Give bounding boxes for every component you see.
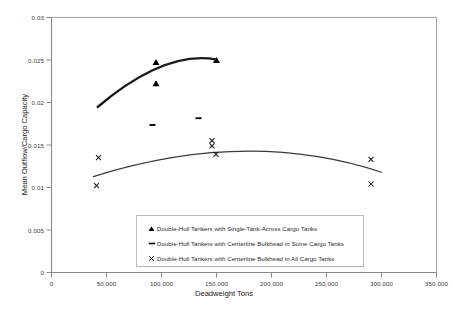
x-tick-label-150000: 150,000 xyxy=(197,280,237,287)
x-marker-icon xyxy=(146,255,157,262)
dash-marker-icon xyxy=(146,240,157,247)
legend-label-centerline-some: Double-Hull Tankers with Centerline Bulk… xyxy=(157,240,344,247)
x-tick-label-200000: 200,000 xyxy=(252,280,292,287)
chart-legend: Double-Hull Tankers with Single-Tank-Acr… xyxy=(136,215,364,267)
y-axis-title: Mean Outflow/Cargo Capacity xyxy=(20,65,29,225)
x-tick-label-100000: 100,000 xyxy=(142,280,182,287)
x-tick-label-0: 0 xyxy=(32,280,72,287)
x-tick-marks xyxy=(52,273,437,278)
y-tick-label-0.025: 0.025 xyxy=(8,57,44,64)
x-tick-label-350000: 350,000 xyxy=(417,280,453,287)
legend-label-single-tank-across: Double-Hull Tankers with Single-Tank-Acr… xyxy=(157,225,317,232)
legend-label-centerline-all: Double-Hull Tankers with Centerline Bulk… xyxy=(157,255,334,262)
x-tick-label-300000: 300,000 xyxy=(362,280,402,287)
legend-item-single-tank-across: Double-Hull Tankers with Single-Tank-Acr… xyxy=(146,221,363,236)
legend-item-centerline-all: Double-Hull Tankers with Centerline Bulk… xyxy=(146,251,363,266)
y-tick-label-0: 0 xyxy=(8,269,44,276)
x-tick-label-250000: 250,000 xyxy=(307,280,347,287)
y-tick-label-0.03: 0.03 xyxy=(8,14,44,21)
y-tick-label-0.005: 0.005 xyxy=(8,227,44,234)
triangle-marker-icon xyxy=(146,225,157,232)
legend-item-centerline-some: Double-Hull Tankers with Centerline Bulk… xyxy=(146,236,363,251)
x-axis-title: Deadweight Tons xyxy=(0,289,448,298)
x-tick-label-50000: 50,000 xyxy=(87,280,127,287)
y-tick-marks xyxy=(47,18,52,273)
